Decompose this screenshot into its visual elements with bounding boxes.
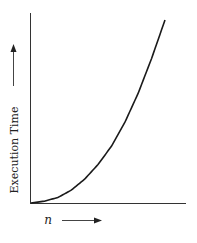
execution-time-chart: Execution Time n bbox=[0, 0, 197, 243]
execution-time-curve bbox=[31, 20, 165, 203]
y-axis-label: Execution Time bbox=[8, 107, 21, 194]
y-axis-arrow-icon bbox=[11, 44, 17, 86]
x-axis-label: n bbox=[44, 213, 52, 227]
x-axis-arrow-icon bbox=[62, 218, 102, 224]
